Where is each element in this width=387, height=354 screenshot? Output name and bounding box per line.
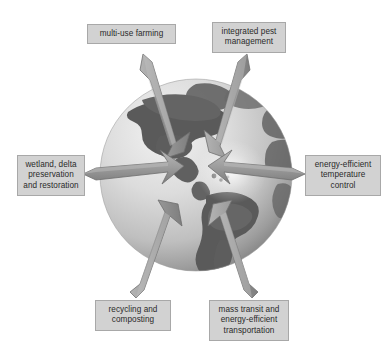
callout-line: control xyxy=(311,181,375,191)
callout-line: management xyxy=(218,37,280,47)
callout-line: multi-use farming xyxy=(93,29,170,39)
callout-line: mass transit and xyxy=(215,305,283,315)
callout-line: and restoration xyxy=(23,181,79,191)
callout-line: integrated pest xyxy=(218,27,280,37)
callout-line: recycling and xyxy=(101,305,165,315)
callout-line: transportation xyxy=(215,326,283,336)
callout-line: temperature xyxy=(311,170,375,180)
callout-label-multi-use-farming: multi-use farming xyxy=(87,24,176,44)
callout-label-wetland-delta-preservation: wetland, delta preservation and restorat… xyxy=(17,155,85,196)
callout-line: preservation xyxy=(23,170,79,180)
callout-label-integrated-pest-management: integrated pest management xyxy=(212,22,286,53)
callout-label-mass-transit-transportation: mass transit and energy-efficient transp… xyxy=(209,300,289,341)
callout-label-recycling-and-composting: recycling and composting xyxy=(95,300,171,331)
callout-label-energy-efficient-temperature-control: energy-efficient temperature control xyxy=(305,155,381,196)
callout-line: energy-efficient xyxy=(215,315,283,325)
earth-globe xyxy=(100,79,306,293)
callout-line: energy-efficient xyxy=(311,160,375,170)
callout-line: wetland, delta xyxy=(23,160,79,170)
callout-line: composting xyxy=(101,315,165,325)
diagram-canvas: multi-use farming integrated pest manage… xyxy=(0,0,387,354)
